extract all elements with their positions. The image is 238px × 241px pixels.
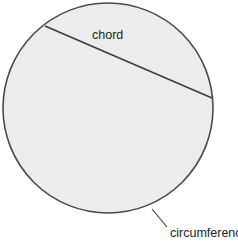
- circumference-label: circumference: [170, 226, 238, 240]
- circumference-leader-line: [152, 209, 167, 227]
- chord-label: chord: [92, 28, 123, 42]
- circle-diagram: chord circumference: [0, 0, 238, 241]
